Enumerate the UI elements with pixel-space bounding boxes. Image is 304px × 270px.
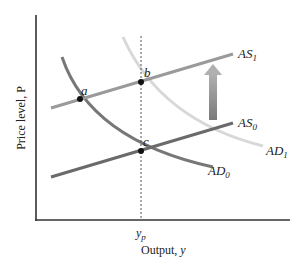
shift-up-arrow-icon bbox=[204, 64, 222, 120]
as0-label: AS0 bbox=[237, 115, 257, 132]
point-b-label: b bbox=[144, 65, 151, 80]
point-c-label: c bbox=[143, 134, 149, 149]
y-axis-label: Price level, P bbox=[14, 86, 28, 150]
x-axis-label: Output, y bbox=[141, 243, 186, 257]
as1-label: AS1 bbox=[237, 46, 257, 63]
ad0-label: AD0 bbox=[207, 163, 230, 180]
ad1-label: AD1 bbox=[265, 143, 288, 160]
yp-tick-label: yp bbox=[135, 226, 146, 242]
as-ad-diagram: a b c AS1 AS0 AD1 AD0 yp Output, y Price… bbox=[0, 0, 304, 270]
point-a-label: a bbox=[81, 83, 88, 98]
